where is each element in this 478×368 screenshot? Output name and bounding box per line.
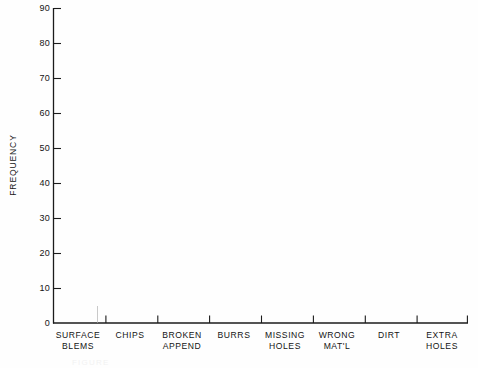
x-tick-label-surface-blems: SURFACE BLEMS <box>49 330 107 351</box>
x-tick-label-broken-append: BROKEN APPEND <box>153 330 211 351</box>
y-tick-label: 40 <box>24 179 50 188</box>
figure-caption-remnant: FIGURE <box>72 358 109 367</box>
x-axis-ticks <box>106 316 468 324</box>
y-tick-label: 20 <box>24 249 50 258</box>
pareto-frequency-chart: FREQUENCY 90 80 70 60 50 40 30 20 10 0 S… <box>0 0 478 368</box>
y-axis-title-text: FREQUENCY <box>8 134 18 195</box>
y-tick-label: 70 <box>24 74 50 83</box>
x-tick-label-chips: CHIPS <box>101 330 159 341</box>
x-tick-label-extra-holes: EXTRA HOLES <box>413 330 471 351</box>
y-tick-label: 30 <box>24 214 50 223</box>
chart-axes <box>0 0 478 368</box>
y-tick-label: 60 <box>24 109 50 118</box>
x-tick-label-wrong-matl: WRONG MAT'L <box>308 330 366 351</box>
x-tick-label-missing-holes: MISSING HOLES <box>256 330 314 351</box>
y-axis-ticks <box>54 9 62 289</box>
y-tick-label: 80 <box>24 39 50 48</box>
x-tick-label-dirt: DIRT <box>360 330 418 341</box>
y-tick-label: 0 <box>24 319 50 328</box>
y-axis-title: FREQUENCY <box>13 156 14 174</box>
y-tick-label: 10 <box>24 284 50 293</box>
y-tick-label: 90 <box>24 4 50 13</box>
y-axis-tick-labels: 90 80 70 60 50 40 30 20 10 0 <box>24 0 50 368</box>
x-tick-label-burrs: BURRS <box>205 330 263 341</box>
y-tick-label: 50 <box>24 144 50 153</box>
